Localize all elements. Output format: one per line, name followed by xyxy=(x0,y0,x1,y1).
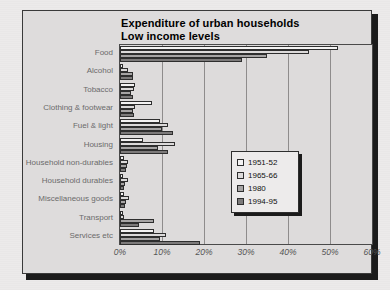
category-label: Household durables xyxy=(42,176,113,185)
gridline-20% xyxy=(204,45,205,244)
category-label: Clothing & footwear xyxy=(43,103,113,112)
bar xyxy=(120,168,126,172)
chart-legend[interactable]: 1951-521965-6619801994-95 xyxy=(231,151,299,213)
legend-swatch-icon xyxy=(237,198,244,205)
category-label: Miscellaneous goods xyxy=(38,194,113,203)
legend-row[interactable]: 1965-66 xyxy=(237,169,298,182)
legend-swatch-icon xyxy=(237,159,244,166)
bar xyxy=(120,95,133,99)
chart-subtitle: Low income levels xyxy=(121,30,371,43)
x-axis-tick-label: 40% xyxy=(279,247,296,257)
legend-row[interactable]: 1980 xyxy=(237,182,298,195)
bar xyxy=(120,58,242,62)
bar xyxy=(120,241,200,245)
bar xyxy=(120,150,168,154)
value-axis-labels: 0%10%20%30%40%50%60% xyxy=(119,247,375,263)
legend-label: 1980 xyxy=(248,184,266,193)
category-label: Housing xyxy=(84,140,113,149)
category-label: Food xyxy=(95,48,113,57)
chart-title-block: Expenditure of urban households Low inco… xyxy=(121,17,371,43)
legend-label: 1965-66 xyxy=(248,171,277,180)
legend-row[interactable]: 1994-95 xyxy=(237,195,298,208)
x-axis-tick-label: 30% xyxy=(237,247,254,257)
category-axis-labels: FoodAlcoholTobaccoClothing & footwearFue… xyxy=(23,44,118,245)
bar xyxy=(120,223,139,227)
bar xyxy=(120,113,134,117)
legend-row[interactable]: 1951-52 xyxy=(237,156,298,169)
bar xyxy=(120,204,125,208)
category-label: Transport xyxy=(79,213,113,222)
chart-frame: Expenditure of urban households Low inco… xyxy=(22,10,372,274)
x-axis-tick-label: 10% xyxy=(153,247,170,257)
bar xyxy=(120,76,133,80)
legend-swatch-icon xyxy=(237,185,244,192)
chart-title: Expenditure of urban households xyxy=(121,17,371,30)
x-axis-tick-label: 60% xyxy=(363,247,380,257)
x-axis-tick-label: 0% xyxy=(114,247,126,257)
category-label: Household non-durables xyxy=(26,158,113,167)
bar xyxy=(120,131,173,135)
legend-label: 1994-95 xyxy=(248,197,277,206)
gridline-50% xyxy=(330,45,331,244)
category-label: Fuel & light xyxy=(73,121,113,130)
x-axis-tick-label: 20% xyxy=(195,247,212,257)
category-label: Alcohol xyxy=(87,66,113,75)
legend-label: 1951-52 xyxy=(248,158,277,167)
page-background: Expenditure of urban households Low inco… xyxy=(0,0,390,290)
legend-swatch-icon xyxy=(237,172,244,179)
category-label: Services etc xyxy=(69,231,113,240)
bar xyxy=(120,186,124,190)
x-axis-tick-label: 50% xyxy=(321,247,338,257)
category-label: Tobacco xyxy=(83,85,113,94)
